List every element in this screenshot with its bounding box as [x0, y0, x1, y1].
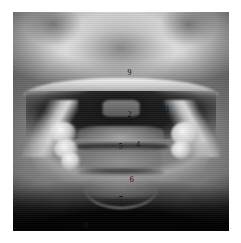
label-4: 4 [136, 141, 140, 149]
label-7: 7 [119, 196, 123, 204]
soft-tissue-right [169, 108, 229, 222]
soft-tissue-left [13, 108, 73, 222]
label-9: 9 [127, 69, 131, 77]
label-8: 8 [84, 222, 88, 230]
radiograph-image: 921154678 [13, 12, 229, 231]
label-11: 11 [162, 106, 170, 114]
label-2: 2 [127, 111, 131, 119]
page-canvas: 921154678 [0, 0, 241, 243]
label-6: 6 [130, 176, 134, 184]
label-5: 5 [119, 143, 123, 151]
vertebra-c1 [103, 100, 140, 118]
